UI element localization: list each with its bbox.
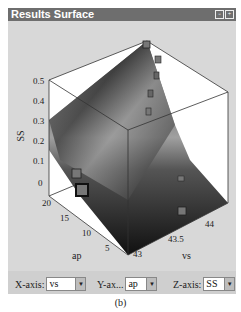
figure-caption: (b): [0, 297, 241, 308]
axis-controls: X-axis: vs ▼ Y-ax... ap ▼ Z-axis: SS ▼: [8, 271, 236, 294]
y-axis-select[interactable]: ap ▼: [125, 277, 157, 291]
svg-text:5: 5: [105, 243, 110, 253]
y-axis-label: ap: [72, 250, 81, 261]
chevron-down-icon[interactable]: ▼: [75, 278, 85, 290]
chevron-down-icon[interactable]: ▼: [146, 278, 156, 290]
x-axis-label: vs: [182, 250, 191, 261]
results-surface-panel: Results Surface ▫ +: [8, 8, 236, 294]
chevron-down-icon[interactable]: ▼: [224, 278, 234, 290]
svg-text:43: 43: [133, 249, 143, 259]
surface-plot[interactable]: 0.5 0.4 0.3 0.2 0.1 0 SS 20 15 10 5 ap 4…: [8, 21, 236, 271]
svg-text:0: 0: [38, 178, 43, 188]
svg-text:0.1: 0.1: [33, 156, 44, 166]
z-axis-select[interactable]: SS ▼: [203, 277, 235, 291]
svg-text:0.2: 0.2: [33, 136, 44, 146]
panel-title: Results Surface: [11, 8, 94, 21]
z-axis-label: SS: [15, 130, 26, 141]
z-axis-control: Z-axis: SS ▼: [173, 277, 235, 291]
title-bar: Results Surface ▫ +: [8, 8, 236, 21]
svg-text:0.3: 0.3: [33, 116, 45, 126]
restore-icon[interactable]: ▫: [215, 10, 224, 19]
x-axis-select[interactable]: vs ▼: [46, 277, 86, 291]
y-axis-control: Y-ax... ap ▼: [97, 277, 157, 291]
svg-text:0.4: 0.4: [33, 96, 45, 106]
z-axis: 0.5 0.4 0.3 0.2 0.1 0 SS: [15, 76, 45, 188]
svg-text:15: 15: [60, 213, 70, 223]
svg-text:0.5: 0.5: [33, 76, 45, 86]
surface-plot-svg: 0.5 0.4 0.3 0.2 0.1 0 SS 20 15 10 5 ap 4…: [8, 21, 236, 271]
svg-text:20: 20: [42, 198, 52, 208]
svg-text:10: 10: [82, 228, 92, 238]
maximize-icon[interactable]: +: [225, 10, 234, 19]
x-axis-control: X-axis: vs ▼: [15, 277, 86, 291]
svg-text:43.5: 43.5: [168, 234, 184, 244]
svg-text:44: 44: [205, 219, 215, 229]
